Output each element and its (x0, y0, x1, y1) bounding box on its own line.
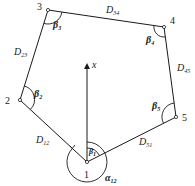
angle-label-beta2: β2 (33, 88, 42, 100)
station-3-label: 3 (37, 1, 42, 12)
angle-arc-beta5 (162, 103, 174, 123)
angle-label-beta5: β5 (151, 100, 160, 112)
side-5-1 (87, 117, 176, 162)
traverse-diagram: x 1 2 3 4 5 D12 D23 D34 D45 D51 β1 β2 β3… (0, 0, 195, 186)
station-4-label: 4 (170, 15, 175, 26)
side-1-2 (20, 100, 87, 162)
side-label-D45: D45 (176, 62, 190, 74)
station-4-marker (162, 25, 165, 28)
angle-label-beta4: β4 (145, 34, 154, 46)
station-5-label: 5 (182, 112, 187, 123)
station-1-marker (85, 160, 88, 163)
station-3-marker (46, 8, 49, 11)
station-2-marker (18, 98, 21, 101)
side-label-D23: D23 (13, 46, 27, 58)
station-2-label: 2 (5, 95, 10, 106)
side-label-D12: D12 (35, 134, 49, 146)
north-axis-label: x (91, 59, 97, 70)
azimuth-label-alpha12: α12 (105, 172, 117, 184)
side-label-D34: D34 (105, 4, 119, 16)
angle-label-beta3: β3 (52, 19, 61, 31)
side-4-5 (164, 27, 176, 117)
station-1-label: 1 (84, 169, 89, 180)
side-label-D51: D51 (138, 136, 152, 148)
angle-label-beta1: β1 (88, 147, 96, 157)
azimuth-arrowhead (70, 145, 75, 148)
station-5-marker (174, 115, 177, 118)
